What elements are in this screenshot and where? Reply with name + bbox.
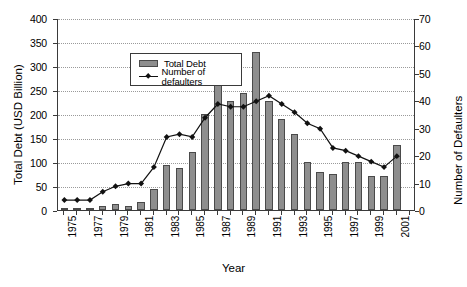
plot-area: Total Debt Number of defaulters [57, 19, 415, 211]
data-point-marker [61, 197, 67, 203]
y-axis-right-tick-label: 30 [419, 124, 459, 134]
y-axis-left-tick-mark [53, 211, 57, 212]
x-axis-tick-label: 2001 [400, 216, 411, 237]
bar-swatch-icon [139, 60, 158, 67]
y-axis-right-tick-label: 10 [419, 179, 459, 189]
line-diamond-icon [139, 73, 156, 80]
x-axis-tick-label: 1989 [246, 216, 257, 237]
x-axis-tick-mark [140, 211, 141, 215]
line-series-number-of-defaulters [58, 19, 416, 211]
data-point-marker [125, 181, 131, 187]
x-axis-tick-mark [294, 211, 295, 215]
x-axis-tick-mark [178, 211, 179, 215]
defaulters-markers [61, 93, 399, 203]
x-axis-tick-label: 1985 [195, 216, 206, 237]
x-axis-tick-label: 1975 [67, 216, 78, 237]
data-point-marker [176, 131, 182, 137]
y-axis-left-tick-label: 100 [5, 158, 47, 168]
x-axis-tick-mark [357, 211, 358, 215]
data-point-marker [266, 93, 272, 99]
data-point-marker [100, 189, 106, 195]
y-axis-right-tick-mark [415, 211, 419, 212]
x-axis-tick-mark [76, 211, 77, 215]
x-axis-tick-label: 1979 [119, 216, 130, 237]
data-point-marker [87, 197, 93, 203]
legend-item-defaulters: Number of defaulters [135, 70, 237, 83]
legend-label-defaulters: Number of defaulters [162, 67, 237, 87]
y-axis-left-tick-label: 250 [5, 86, 47, 96]
x-axis-tick-mark [255, 211, 256, 215]
x-axis-tick-label: 1987 [221, 216, 232, 237]
y-axis-left-tick-label: 50 [5, 182, 47, 192]
data-point-marker [240, 104, 246, 110]
x-axis-tick-label: 1995 [323, 216, 334, 237]
x-axis-tick-label: 1993 [298, 216, 309, 237]
x-axis-tick-mark [191, 211, 192, 215]
x-axis-tick-mark [89, 211, 90, 215]
data-point-marker [74, 197, 80, 203]
x-axis-tick-mark [204, 211, 205, 215]
x-axis-tick-mark [230, 211, 231, 215]
x-axis-tick-mark [268, 211, 269, 215]
y-axis-left-tick-label: 300 [5, 62, 47, 72]
chart-legend: Total Debt Number of defaulters [130, 53, 242, 86]
x-axis-tick-mark [319, 211, 320, 215]
x-axis-tick-label: 1999 [374, 216, 385, 237]
x-axis-tick-mark [115, 211, 116, 215]
y-axis-right-tick-label: 40 [419, 96, 459, 106]
y-axis-left-tick-label: 0 [5, 206, 47, 216]
data-point-marker [164, 134, 170, 140]
y-axis-right-tick-label: 60 [419, 41, 459, 51]
x-axis-tick-mark [332, 211, 333, 215]
x-axis-tick-mark [242, 211, 243, 215]
y-axis-right-tick-label: 20 [419, 151, 459, 161]
y-axis-right-tick-label: 50 [419, 69, 459, 79]
data-point-marker [355, 153, 361, 159]
x-axis-tick-label: 1981 [144, 216, 155, 237]
data-point-marker [368, 159, 374, 165]
x-axis-tick-label: 1977 [93, 216, 104, 237]
x-axis-tick-mark [102, 211, 103, 215]
x-axis-tick-mark [127, 211, 128, 215]
x-axis-tick-mark [409, 211, 410, 215]
x-axis-tick-mark [345, 211, 346, 215]
data-point-marker [113, 183, 119, 189]
data-point-marker [279, 101, 285, 107]
y-axis-left-tick-label: 350 [5, 38, 47, 48]
x-axis-tick-mark [396, 211, 397, 215]
y-axis-right-tick-label: 0 [419, 206, 459, 216]
x-axis-tick-mark [153, 211, 154, 215]
chart-figure: Total Debt (USD Billion) Number of Defau… [0, 0, 467, 287]
x-axis-tick-mark [166, 211, 167, 215]
x-axis-tick-mark [281, 211, 282, 215]
y-axis-left-tick-label: 200 [5, 110, 47, 120]
x-axis-tick-label: 1991 [272, 216, 283, 237]
data-point-marker [253, 98, 259, 104]
data-point-marker [343, 148, 349, 154]
y-axis-left-tick-label: 150 [5, 134, 47, 144]
y-axis-left-tick-label: 400 [5, 14, 47, 24]
x-axis-tick-label: 1997 [349, 216, 360, 237]
x-axis-tick-mark [370, 211, 371, 215]
x-axis-tick-mark [63, 211, 64, 215]
x-axis-title: Year [0, 262, 467, 274]
x-axis-tick-mark [306, 211, 307, 215]
y-axis-right-tick-label: 70 [419, 14, 459, 24]
x-axis-tick-label: 1983 [170, 216, 181, 237]
x-axis-tick-mark [217, 211, 218, 215]
defaulters-line [64, 96, 396, 200]
data-point-marker [228, 104, 234, 110]
x-axis-tick-mark [383, 211, 384, 215]
